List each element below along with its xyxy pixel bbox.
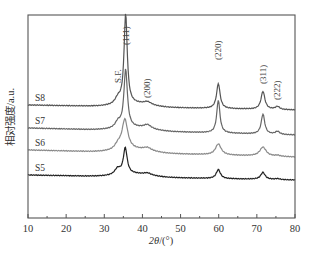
peak-label: (311)	[258, 65, 268, 84]
peak-label: (111)	[121, 26, 131, 45]
x-tick-label: 60	[213, 223, 224, 234]
x-tick-label: 10	[23, 223, 34, 234]
peak-label: (222)	[272, 81, 282, 101]
x-tick-label: 50	[175, 223, 186, 234]
xrd-chart: 1020304050607080 S8S7S6S5 S.F.(111)(200)…	[0, 0, 312, 257]
curve-s7	[28, 69, 295, 135]
x-tick-label: 20	[61, 223, 72, 234]
x-axis-label-unit: /(°)	[159, 235, 174, 247]
x-tick-label: 30	[99, 223, 110, 234]
peak-label: (220)	[213, 41, 223, 61]
x-axis-label-italic: 2θ	[149, 235, 159, 246]
series-label-s8: S8	[35, 93, 45, 103]
peak-label: S.F.	[113, 69, 123, 83]
y-axis-label: 相对强度/a.u.	[4, 88, 16, 146]
x-tick-label: 40	[137, 223, 148, 234]
x-axis-label: 2θ/(°)	[149, 235, 174, 247]
curve-s6	[28, 119, 295, 158]
peak-label: (200)	[142, 79, 152, 99]
x-tick-label: 80	[290, 223, 301, 234]
x-axis-ticks: 1020304050607080	[23, 214, 301, 234]
series-label-s6: S6	[35, 138, 45, 148]
plot-frame	[28, 15, 295, 218]
peak-labels: S.F.(111)(200)(220)(311)(222)	[113, 26, 283, 100]
series-label-s7: S7	[35, 116, 45, 126]
series-label-s5: S5	[35, 163, 45, 173]
curve-s8	[28, 14, 295, 110]
xrd-curves	[28, 14, 295, 180]
x-tick-label: 70	[252, 223, 263, 234]
